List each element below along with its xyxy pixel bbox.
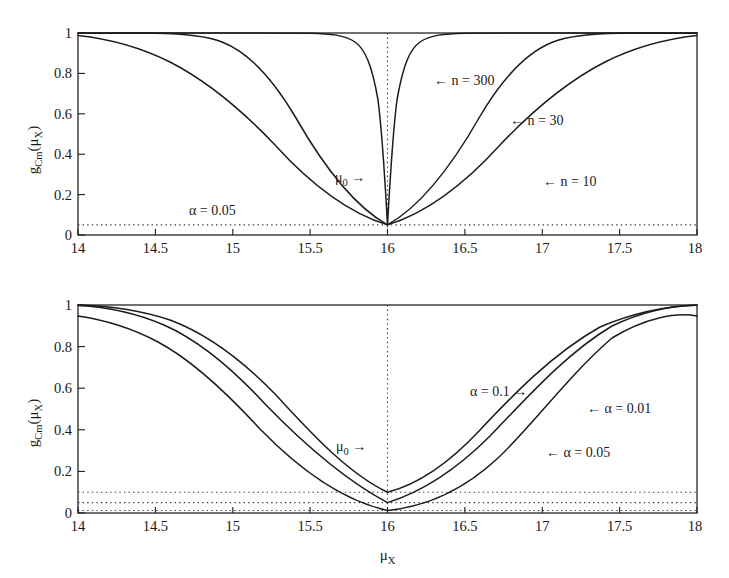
y-tick-0: 0 (65, 505, 72, 521)
y-tick-0: 0 (65, 227, 72, 243)
annotation-n-300: ← n = 300 (434, 73, 494, 88)
svg-text:gCm(μX): gCm(μX) (25, 126, 44, 174)
ylabel-arg: μ (25, 138, 41, 146)
x-tick-4: 16 (380, 240, 395, 256)
xlabel-sub: X (388, 555, 396, 566)
top-reference-lines (78, 33, 697, 235)
y-tick-5: 1 (65, 25, 72, 41)
x-tick-7: 17.5 (607, 240, 632, 256)
chart-panel-bottom: 14 14.5 15 15.5 16 16.5 17 17.5 18 0 0.2… (0, 288, 729, 578)
bottom-annotations: α = 0.1 → ← α = 0.01 ← α = 0.05 μ0 → (336, 384, 651, 460)
top-panel-svg: 14 14.5 15 15.5 16 16.5 17 17.5 18 0 0.2… (0, 0, 729, 290)
x-tick-3: 15.5 (297, 518, 322, 534)
bottom-y-ticks (78, 305, 85, 513)
ylabel-arg: μ (25, 411, 41, 419)
bottom-x-ticklabels: 14 14.5 15 15.5 16 16.5 17 17.5 18 (71, 518, 703, 534)
top-x-ticks (78, 229, 697, 235)
y-tick-4: 0.8 (54, 339, 72, 355)
x-tick-4: 16 (380, 518, 395, 534)
power-function-figure: 14 14.5 15 15.5 16 16.5 17 17.5 18 0 0.2… (0, 0, 729, 578)
annotation-alpha-01: α = 0.1 → (470, 384, 527, 399)
annotation-alpha-005: ← α = 0.05 (546, 445, 610, 460)
x-tick-2: 15 (226, 240, 241, 256)
y-tick-2: 0.4 (54, 146, 73, 162)
x-tick-7: 17.5 (607, 518, 632, 534)
x-tick-1: 14.5 (143, 518, 168, 534)
annotation-n-30: ← n = 30 (510, 113, 563, 128)
x-tick-0: 14 (71, 518, 86, 534)
annotation-alpha-001: ← α = 0.01 (587, 401, 651, 416)
y-tick-2: 0.4 (54, 422, 73, 438)
top-y-ticks (78, 33, 85, 235)
ylabel-close: ) (25, 126, 42, 131)
annotation-mu0: μ0 → (335, 170, 365, 188)
top-axes-frame (78, 33, 697, 235)
svg-text:μX: μX (380, 547, 396, 566)
bottom-y-axis-label: gCm(μX) (25, 399, 44, 447)
chart-panel-top: 14 14.5 15 15.5 16 16.5 17 17.5 18 0 0.2… (0, 0, 729, 290)
xlabel-base: μ (380, 547, 388, 563)
y-tick-3: 0.6 (54, 106, 72, 122)
ylabel-sub: Cm (33, 151, 44, 166)
top-y-axis-label: gCm(μX) (25, 126, 44, 174)
bottom-panel-svg: 14 14.5 15 15.5 16 16.5 17 17.5 18 0 0.2… (0, 288, 729, 578)
bottom-x-axis-label: μX (380, 547, 396, 566)
y-tick-1: 0.2 (54, 187, 72, 203)
x-tick-0: 14 (71, 240, 86, 256)
x-tick-5: 16.5 (452, 518, 477, 534)
annotation-alpha-005: α = 0.05 (189, 203, 236, 218)
y-tick-5: 1 (65, 297, 72, 313)
x-tick-8: 18 (688, 240, 703, 256)
x-tick-3: 15.5 (297, 240, 322, 256)
ylabel-sub: Cm (33, 424, 44, 439)
x-tick-8: 18 (688, 518, 703, 534)
annotation-n-10: ← n = 10 (543, 174, 596, 189)
top-y-ticklabels: 0 0.2 0.4 0.6 0.8 1 (54, 25, 73, 243)
annotation-mu0: μ0 → (336, 439, 366, 457)
svg-text:gCm(μX): gCm(μX) (25, 399, 44, 447)
bottom-y-ticklabels: 0 0.2 0.4 0.6 0.8 1 (54, 297, 73, 521)
y-tick-4: 0.8 (54, 65, 72, 81)
y-tick-1: 0.2 (54, 463, 72, 479)
x-tick-6: 17 (535, 518, 550, 534)
x-tick-1: 14.5 (143, 240, 168, 256)
ylabel-close: ) (25, 399, 42, 404)
y-tick-3: 0.6 (54, 380, 72, 396)
x-tick-5: 16.5 (452, 240, 477, 256)
top-x-ticklabels: 14 14.5 15 15.5 16 16.5 17 17.5 18 (71, 240, 703, 256)
x-tick-6: 17 (535, 240, 550, 256)
x-tick-2: 15 (226, 518, 241, 534)
